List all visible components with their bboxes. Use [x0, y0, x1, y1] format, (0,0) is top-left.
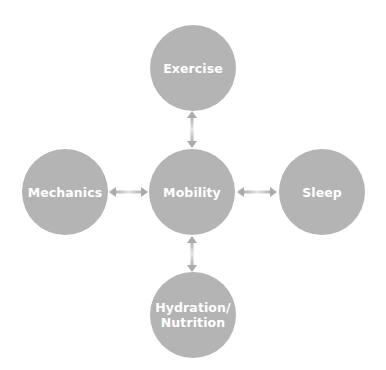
node-mobility-label: Mobility — [163, 185, 221, 200]
node-mobility: Mobility — [149, 149, 235, 235]
arrow-mobility-hydration — [187, 236, 197, 272]
node-mechanics-label: Mechanics — [28, 185, 103, 200]
node-exercise-label: Exercise — [163, 61, 223, 76]
node-exercise: Exercise — [150, 25, 236, 111]
node-hydration-nutrition: Hydration/ Nutrition — [150, 272, 236, 358]
node-sleep-label: Sleep — [302, 185, 342, 200]
arrow-mobility-sleep — [237, 187, 277, 197]
node-hydration-nutrition-label: Hydration/ Nutrition — [155, 300, 230, 330]
node-sleep: Sleep — [279, 149, 365, 235]
arrow-mechanics-mobility — [109, 187, 148, 197]
arrow-exercise-mobility — [187, 111, 197, 148]
node-mechanics: Mechanics — [22, 149, 108, 235]
